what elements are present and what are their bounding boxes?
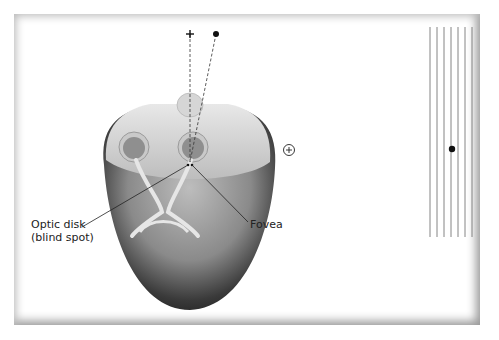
dot-target-icon	[213, 31, 219, 37]
lines-dot-icon	[449, 146, 455, 152]
vertical-lines-pattern	[430, 27, 472, 237]
cross-target-icon	[186, 30, 194, 38]
optic-disk-label-line2: (blind spot)	[31, 231, 94, 244]
optic-disk-label: Optic disk (blind spot)	[31, 218, 94, 244]
blind-spot-diagram	[0, 0, 499, 340]
head-illustration	[103, 93, 275, 310]
circled-plus-icon	[284, 145, 295, 156]
fovea-label: Fovea	[250, 218, 283, 231]
optic-disk-label-line1: Optic disk	[31, 218, 94, 231]
